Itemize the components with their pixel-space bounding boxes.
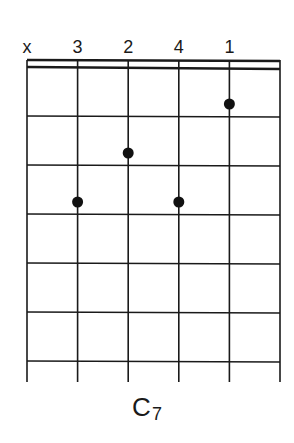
fret-line: [27, 361, 280, 362]
fret-line: [27, 312, 280, 313]
top-markers: x3241: [23, 37, 235, 57]
chord-name: C7: [0, 392, 294, 423]
fret-line: [27, 263, 280, 264]
fret-line: [27, 214, 280, 215]
string-lines: [27, 60, 280, 382]
finger-number-label: 2: [123, 37, 133, 57]
nut: [27, 60, 280, 69]
fret-line: [27, 116, 280, 117]
finger-dots: [72, 99, 235, 208]
nut-line-top: [27, 60, 280, 61]
fret-lines: [27, 116, 280, 362]
finger-dot: [173, 197, 184, 208]
chord-suffix: 7: [152, 404, 162, 424]
fret-line: [27, 165, 280, 166]
finger-dot: [224, 99, 235, 110]
finger-number-label: 3: [73, 37, 83, 57]
muted-string-marker: x: [23, 37, 32, 57]
nut-line-bottom: [27, 67, 280, 69]
chord-diagram: x3241: [0, 0, 294, 443]
finger-dot: [72, 197, 83, 208]
chord-root: C: [132, 392, 151, 422]
finger-number-label: 1: [224, 37, 234, 57]
finger-number-label: 4: [174, 37, 184, 57]
finger-dot: [123, 148, 134, 159]
